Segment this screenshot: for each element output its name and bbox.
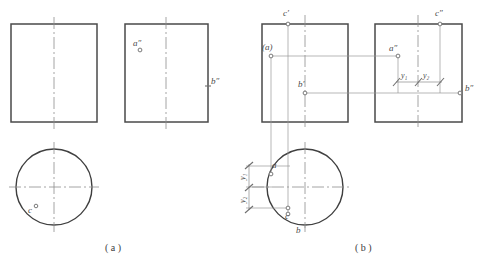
figure-a-label-c: c: [28, 205, 32, 215]
figure-b-label-c-double-prime: c″: [435, 8, 443, 18]
figure-b-label-y1-top: y₁: [238, 173, 247, 181]
top-text-fragment: [0, 0, 481, 7]
figure-a-group: a″ b″ c ( a ): [9, 17, 220, 254]
figure-b-point-c-double-prime-marker: [438, 22, 442, 26]
figure-b-point-c-top-marker: [286, 206, 290, 210]
figure-a-label-a-double-prime: a″: [133, 38, 142, 48]
figure-b-side-view-rectangle: [375, 24, 462, 122]
figure-b-label-y2-top: y₂: [238, 196, 247, 204]
figure-a-caption: ( a ): [105, 242, 121, 254]
figure-b-point-a-marker: [269, 54, 273, 58]
figure-b-label-y1-side: y₁: [400, 71, 408, 80]
figure-b-label-b-top: b: [296, 225, 301, 235]
figure-b-point-a-double-prime-marker: [396, 54, 400, 58]
figure-b-label-c-top: c: [285, 211, 289, 221]
figure-b-label-a-top: a: [272, 160, 277, 170]
drawing-canvas: a″ b″ c ( a ): [0, 0, 481, 267]
figure-b-point-b-double-prime-marker: [458, 91, 462, 95]
figure-b-point-c-prime-marker: [286, 22, 290, 26]
figure-b-group: c′ (a) b′ c″ a″ b″ y₁ y₂: [238, 8, 474, 254]
figure-b-point-a-top-marker: [269, 172, 273, 176]
figure-b-point-b-prime-marker: [303, 91, 307, 95]
figure-a-point-a-double-prime-marker: [138, 48, 142, 52]
figure-a-point-c-marker: [34, 204, 38, 208]
figure-b-label-b-prime: b′: [298, 79, 306, 89]
figure-b-caption: ( b ): [355, 242, 372, 254]
figure-b-label-c-prime: c′: [283, 8, 290, 18]
figure-b-label-a-parenthesised: (a): [262, 42, 273, 52]
figure-b-label-a-double-prime: a″: [389, 43, 398, 53]
figure-b-label-b-double-prime: b″: [465, 83, 474, 93]
engineering-drawing-figure: a″ b″ c ( a ): [0, 0, 481, 267]
figure-a-label-b-double-prime: b″: [211, 76, 220, 86]
figure-b-label-y2-side: y₂: [422, 71, 430, 80]
